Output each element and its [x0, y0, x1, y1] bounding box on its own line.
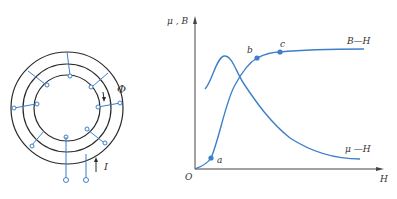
flux-arrow-icon [102, 92, 106, 102]
current-label: I [103, 161, 109, 172]
x-axis-label: H [379, 174, 388, 184]
figure: Φ I μ , B H O a b c B—H μ —H [0, 0, 397, 199]
point-b [254, 55, 259, 60]
y-axis-label: μ , B [167, 16, 188, 26]
mu-h-curve-label: μ —H [345, 144, 371, 154]
mu-h-curve [205, 56, 360, 159]
magnetization-chart: μ , B H O a b c B—H μ —H [167, 16, 388, 184]
current-arrow-icon [94, 157, 98, 172]
point-c [277, 49, 282, 54]
b-h-curve [195, 49, 364, 169]
point-b-label: b [247, 45, 253, 55]
y-axis-arrow-icon [193, 16, 197, 24]
toroid-outer-ring [11, 52, 123, 164]
b-h-curve-label: B—H [346, 36, 371, 46]
point-a [208, 155, 213, 160]
terminal-left [64, 178, 69, 183]
terminal-right [84, 178, 89, 183]
coil-windings [12, 52, 122, 148]
origin-label: O [185, 172, 193, 182]
point-c-label: c [280, 39, 285, 49]
lead-wires [64, 137, 89, 183]
point-a-label: a [217, 155, 222, 165]
x-axis-arrow-icon [376, 167, 384, 171]
flux-label: Φ [117, 83, 126, 96]
toroid-diagram: Φ I [11, 52, 126, 183]
